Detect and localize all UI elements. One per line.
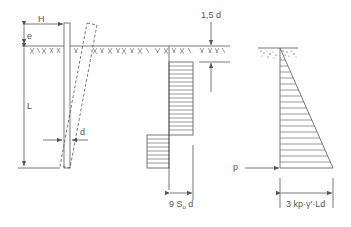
upper-block-hatch <box>169 66 193 130</box>
pile-elevation <box>18 23 230 168</box>
upper-pressure-block <box>169 62 193 135</box>
label-H: H <box>38 15 45 24</box>
label-9sud: 9 Su d <box>169 200 193 210</box>
ground-hatch-right <box>74 48 225 54</box>
pile-lateral-load-diagram <box>0 0 351 227</box>
label-e: e <box>27 32 32 41</box>
label-9sud-main: 9 S <box>169 199 183 209</box>
label-d: d <box>80 128 85 137</box>
label-3kp: 3 kp·γ'·Ld <box>286 200 325 209</box>
ground-hatch-left <box>30 48 60 54</box>
label-L: L <box>27 102 32 111</box>
label-9sud-tail: d <box>186 199 194 209</box>
cohesionless-pressure-diagram <box>245 48 333 208</box>
label-1-5d: 1,5 d <box>201 11 221 20</box>
label-p: p <box>233 163 238 172</box>
gravel-texture <box>260 50 296 58</box>
pile <box>64 23 70 168</box>
triangle-hatch <box>280 60 330 162</box>
lower-block-hatch <box>147 139 169 163</box>
